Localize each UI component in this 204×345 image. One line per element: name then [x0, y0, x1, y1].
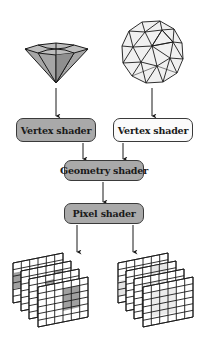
geometry-shader-label: Geometry shader	[60, 165, 148, 176]
pixel-grid-stack-left-icon	[13, 253, 88, 327]
vertex-shader-right-label: Vertex shader	[118, 125, 188, 136]
vertex-shader-left-label: Vertex shader	[21, 125, 91, 136]
geodesic-sphere-icon	[121, 21, 183, 83]
pixel-shader-node: Pixel shader	[64, 203, 144, 224]
vertex-shader-right-node: Vertex shader	[113, 118, 193, 142]
diamond-mesh-icon	[25, 43, 88, 83]
shader-pipeline-diagram: Vertex shader Vertex shader Geometry sha…	[0, 0, 204, 345]
pixel-shader-label: Pixel shader	[72, 208, 135, 219]
vertex-shader-left-node: Vertex shader	[16, 118, 96, 142]
geometry-shader-node: Geometry shader	[64, 160, 144, 181]
pixel-grid-stack-right-icon	[118, 253, 193, 327]
